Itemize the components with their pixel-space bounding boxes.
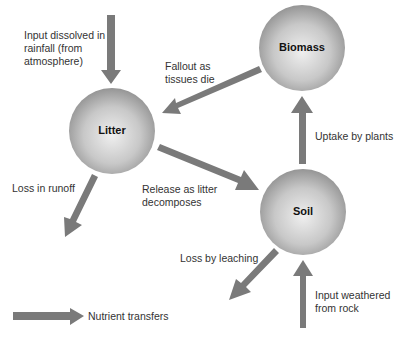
litter-label: Litter bbox=[67, 124, 157, 136]
fallout-label: Fallout as tissues die bbox=[165, 60, 215, 86]
biomass-label: Biomass bbox=[257, 41, 347, 53]
runoff-loss-label: Loss in runoff bbox=[12, 182, 75, 195]
release-label: Release as litter decomposes bbox=[142, 183, 217, 209]
uptake-label: Uptake by plants bbox=[315, 130, 393, 143]
uptake-arrow bbox=[291, 96, 313, 164]
weathering-input-arrow bbox=[293, 260, 313, 328]
soil-label: Soil bbox=[258, 205, 348, 217]
legend-arrow bbox=[13, 308, 84, 325]
weathering-input-label: Input weathered from rock bbox=[315, 289, 390, 315]
leaching-loss-label: Loss by leaching bbox=[180, 252, 258, 265]
legend-label: Nutrient transfers bbox=[88, 310, 169, 323]
rainfall-input-label: Input dissolved in rainfall (from atmosp… bbox=[24, 29, 105, 68]
